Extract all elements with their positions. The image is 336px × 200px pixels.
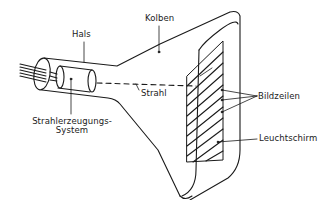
electron-beam [97, 83, 196, 86]
raster-area [187, 41, 223, 162]
label-hals: Hals [72, 30, 91, 39]
label-strahlerzeugungs-line2: System [30, 126, 114, 135]
label-bildzeilen: Bildzeilen [258, 92, 300, 101]
bulb-lower-outline [42, 90, 180, 196]
label-strahl: Strahl [141, 89, 167, 98]
label-strahlerzeugungs-system: Strahlerzeugungs- System [30, 117, 114, 135]
input-wires [20, 64, 46, 82]
label-kolben: Kolben [145, 14, 174, 23]
electron-gun [50, 66, 96, 92]
label-leuchtschirm: Leuchtschirm [259, 134, 317, 143]
